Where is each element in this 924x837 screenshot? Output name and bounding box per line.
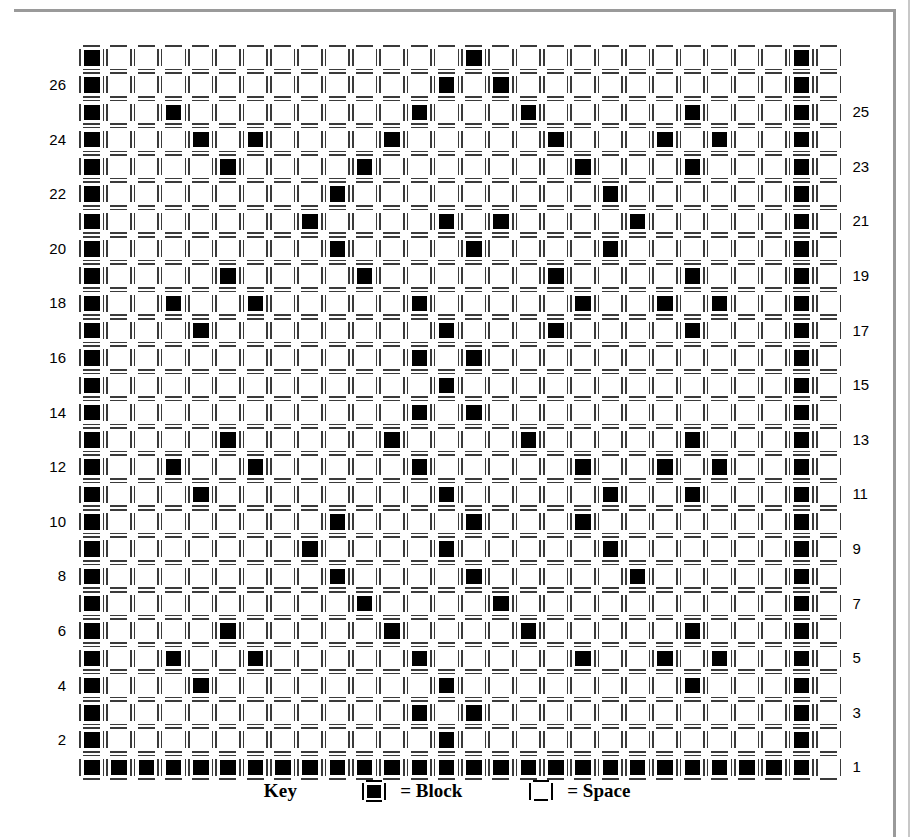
grid-cell-block bbox=[597, 481, 624, 508]
grid-cell-space bbox=[378, 672, 405, 699]
grid-cell-space bbox=[296, 481, 323, 508]
grid-cell-space bbox=[242, 208, 269, 235]
grid-cell-block bbox=[324, 508, 351, 535]
grid-cell-space bbox=[651, 426, 678, 453]
grid-cell-space bbox=[815, 563, 842, 590]
grid-cell-block bbox=[214, 153, 241, 180]
grid-cell-block bbox=[679, 617, 706, 644]
grid-cell-space bbox=[296, 262, 323, 289]
row-label-left-14: 14 bbox=[26, 405, 66, 420]
grid-cell-space bbox=[815, 453, 842, 480]
row-label-left-18: 18 bbox=[26, 295, 66, 310]
grid-cell-space bbox=[378, 180, 405, 207]
grid-cell-space bbox=[351, 617, 378, 644]
grid-cell-space bbox=[679, 563, 706, 590]
grid-cell-space bbox=[133, 617, 160, 644]
grid-cell-space bbox=[214, 180, 241, 207]
grid-cell-space bbox=[269, 426, 296, 453]
grid-cell-space bbox=[269, 453, 296, 480]
grid-cell-space bbox=[760, 208, 787, 235]
grid-cell-space bbox=[242, 317, 269, 344]
grid-cell-block bbox=[515, 426, 542, 453]
grid-cell-space bbox=[597, 262, 624, 289]
grid-cell-block bbox=[487, 208, 514, 235]
grid-cell-block bbox=[78, 453, 105, 480]
grid-cell-space bbox=[324, 645, 351, 672]
grid-cell-space bbox=[679, 180, 706, 207]
grid-cell-space bbox=[597, 208, 624, 235]
grid-cell-space bbox=[378, 372, 405, 399]
grid-cell-space bbox=[569, 481, 596, 508]
grid-cell-space bbox=[406, 262, 433, 289]
grid-cell-space bbox=[433, 563, 460, 590]
grid-cell-space bbox=[733, 535, 760, 562]
grid-cell-space bbox=[242, 481, 269, 508]
grid-cell-space bbox=[487, 645, 514, 672]
grid-cell-space bbox=[815, 672, 842, 699]
grid-cell-space bbox=[269, 481, 296, 508]
grid-cell-space bbox=[406, 317, 433, 344]
grid-cell-space bbox=[296, 672, 323, 699]
grid-cell-space bbox=[378, 317, 405, 344]
grid-cell-space bbox=[460, 672, 487, 699]
grid-cell-block bbox=[324, 754, 351, 781]
grid-cell-block bbox=[187, 754, 214, 781]
grid-cell-space bbox=[324, 317, 351, 344]
grid-row bbox=[78, 372, 842, 399]
grid-cell-block bbox=[487, 590, 514, 617]
grid-cell-block bbox=[788, 99, 815, 126]
grid-cell-space bbox=[515, 563, 542, 590]
grid-cell-space bbox=[815, 99, 842, 126]
row-label-left-20: 20 bbox=[26, 241, 66, 256]
grid-cell-space bbox=[351, 481, 378, 508]
grid-cell-space bbox=[105, 590, 132, 617]
grid-cell-block bbox=[214, 426, 241, 453]
grid-cell-space bbox=[624, 645, 651, 672]
grid-cell-space bbox=[351, 99, 378, 126]
grid-cell-space bbox=[296, 508, 323, 535]
grid-cell-space bbox=[651, 372, 678, 399]
row-label-left-4: 4 bbox=[26, 678, 66, 693]
grid-cell-space bbox=[542, 44, 569, 71]
grid-cell-block bbox=[706, 754, 733, 781]
grid-cell-block bbox=[78, 590, 105, 617]
row-label-right-1: 1 bbox=[852, 759, 892, 774]
grid-cell-space bbox=[406, 208, 433, 235]
grid-cell-space bbox=[296, 235, 323, 262]
grid-cell-space bbox=[733, 426, 760, 453]
grid-cell-space bbox=[378, 563, 405, 590]
grid-cell-space bbox=[160, 344, 187, 371]
grid-cell-space bbox=[351, 126, 378, 153]
grid-cell-space bbox=[187, 453, 214, 480]
grid-cell-block bbox=[78, 317, 105, 344]
grid-cell-space bbox=[733, 590, 760, 617]
row-label-right-23: 23 bbox=[852, 159, 892, 174]
grid-cell-space bbox=[242, 590, 269, 617]
grid-cell-space bbox=[214, 453, 241, 480]
grid-cell-block bbox=[78, 481, 105, 508]
grid-cell-space bbox=[679, 71, 706, 98]
grid-cell-space bbox=[406, 153, 433, 180]
grid-cell-space bbox=[269, 645, 296, 672]
grid-cell-space bbox=[542, 508, 569, 535]
grid-cell-space bbox=[706, 399, 733, 426]
grid-cell-space bbox=[733, 508, 760, 535]
grid-cell-space bbox=[269, 563, 296, 590]
grid-cell-space bbox=[242, 344, 269, 371]
grid-cell-space bbox=[296, 71, 323, 98]
grid-cell-space bbox=[406, 126, 433, 153]
grid-cell-space bbox=[187, 262, 214, 289]
grid-cell-space bbox=[542, 426, 569, 453]
grid-cell-space bbox=[324, 726, 351, 753]
grid-cell-space bbox=[597, 617, 624, 644]
grid-cell-space bbox=[105, 699, 132, 726]
grid-cell-space bbox=[815, 235, 842, 262]
grid-cell-space bbox=[160, 535, 187, 562]
grid-row bbox=[78, 617, 842, 644]
grid-cell-space bbox=[651, 344, 678, 371]
grid-cell-block bbox=[597, 754, 624, 781]
grid-cell-space bbox=[296, 590, 323, 617]
grid-cell-space bbox=[815, 290, 842, 317]
grid-cell-space bbox=[651, 563, 678, 590]
grid-cell-space bbox=[760, 372, 787, 399]
